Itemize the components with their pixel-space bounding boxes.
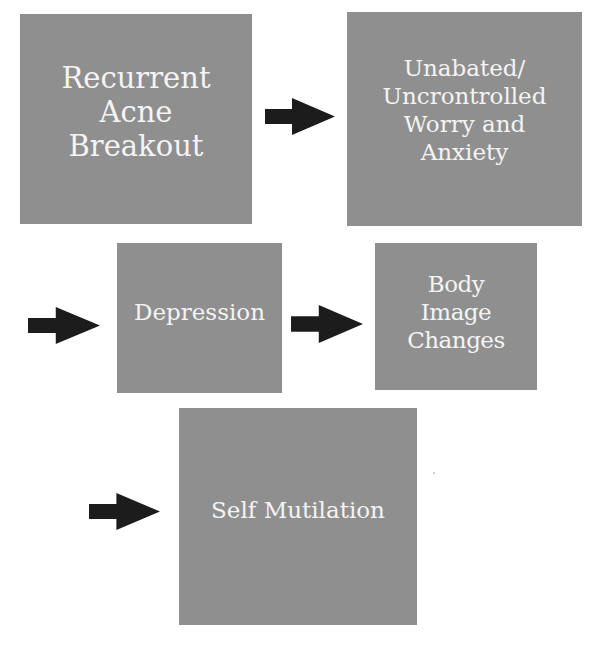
- node-worry-and-anxiety: Unabated/ Uncrontrolled Worry and Anxiet…: [347, 12, 582, 226]
- acne-consequences-flowchart: Recurrent Acne Breakout Unabated/ Uncron…: [0, 0, 601, 663]
- node-label: Body Image Changes: [407, 270, 505, 354]
- node-depression: Depression: [117, 243, 282, 393]
- right-arrow-icon: [291, 305, 363, 343]
- scan-artifact-dot: [433, 472, 435, 474]
- node-label: Unabated/ Uncrontrolled Worry and Anxiet…: [383, 54, 547, 166]
- right-arrow-icon: [265, 98, 335, 135]
- node-self-mutilation: Self Mutilation: [179, 408, 417, 625]
- right-arrow-icon: [89, 493, 160, 530]
- node-label: Depression: [134, 298, 265, 326]
- node-recurrent-acne-breakout: Recurrent Acne Breakout: [20, 14, 252, 224]
- node-label: Recurrent Acne Breakout: [61, 61, 210, 163]
- node-body-image-changes: Body Image Changes: [375, 243, 537, 390]
- node-label: Self Mutilation: [211, 496, 385, 524]
- right-arrow-icon: [28, 307, 100, 344]
